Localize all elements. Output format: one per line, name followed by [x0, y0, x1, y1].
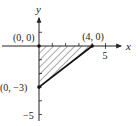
vertex-label: (4, 0)	[82, 31, 104, 43]
region-plot: 5−5 (0, 0)(4, 0)(0, −3) x y	[0, 0, 140, 126]
x-axis-label: x	[125, 40, 131, 52]
vertex-point	[90, 44, 94, 48]
vertex-point	[37, 85, 41, 89]
y-axis-label: y	[35, 3, 41, 15]
vertex-point	[37, 44, 41, 48]
x-tick-label: 5	[103, 50, 108, 61]
vertex-label: (0, −3)	[0, 82, 27, 94]
vertex-label: (0, 0)	[13, 32, 35, 44]
y-tick-label: −5	[23, 110, 34, 121]
